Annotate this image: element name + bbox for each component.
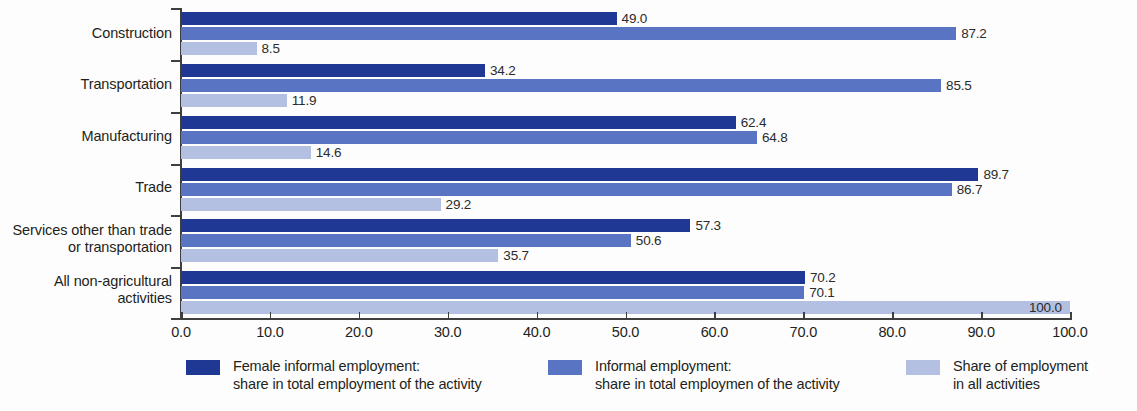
x-axis-tick — [892, 312, 894, 320]
x-axis-tick-label: 30.0 — [434, 324, 461, 340]
bar-value-label: 57.3 — [690, 218, 720, 233]
x-axis-tick-label: 70.0 — [790, 324, 817, 340]
x-axis-tick-label: 10.0 — [256, 324, 283, 340]
plot-area: 49.0 87.2 8.5 34.2 85.5 11.9 — [181, 8, 1070, 318]
bar-informal[interactable] — [181, 79, 941, 92]
legend-label-line: Share of employment — [953, 358, 1088, 376]
category-axis-labels: Construction Transportation Manufacturin… — [0, 0, 181, 330]
bar-group-trade: 89.7 86.7 29.2 — [181, 168, 1070, 216]
category-label-trade: Trade — [11, 179, 181, 196]
bar-group-services: 57.3 50.6 35.7 — [181, 219, 1070, 267]
x-axis-tick-label: 80.0 — [878, 324, 905, 340]
legend-label-line: in all activities — [953, 376, 1088, 394]
legend-label: Informal employment: share in total empl… — [595, 358, 840, 393]
category-label-line: Construction — [11, 25, 172, 42]
category-label-line: Trade — [11, 179, 172, 196]
legend-swatch-icon — [548, 360, 582, 375]
x-axis-tick — [803, 312, 805, 320]
bar-female-informal[interactable] — [181, 271, 805, 284]
x-axis-tick-label: 60.0 — [701, 324, 728, 340]
category-label-construction: Construction — [11, 25, 181, 42]
bar-share-all[interactable] — [181, 198, 441, 211]
bar-value-label: 70.1 — [804, 285, 834, 300]
bar-informal[interactable] — [181, 27, 956, 40]
bar-value-label: 64.8 — [757, 130, 787, 145]
bar-share-all[interactable] — [181, 42, 257, 55]
category-label-line: activities — [11, 290, 172, 307]
bar-value-label: 89.7 — [978, 167, 1008, 182]
bar-value-label: 70.2 — [805, 270, 835, 285]
bar-chart: Construction Transportation Manufacturin… — [0, 0, 1137, 411]
category-label-line: Services other than trade — [11, 222, 172, 239]
legend-item-share-all[interactable]: Share of employment in all activities — [906, 358, 1088, 393]
legend-label-line: Informal employment: — [595, 358, 840, 376]
x-axis-tick-label: 90.0 — [967, 324, 994, 340]
bar-informal[interactable] — [181, 286, 804, 299]
bar-female-informal[interactable] — [181, 219, 690, 232]
legend-item-female-informal[interactable]: Female informal employment: share in tot… — [186, 358, 482, 393]
category-label-manufacturing: Manufacturing — [11, 128, 181, 145]
x-axis-tick — [981, 312, 983, 320]
legend-label-line: share in total employment of the activit… — [233, 376, 482, 394]
x-axis-tick-label: 0.0 — [171, 324, 191, 340]
x-axis-tick — [181, 312, 183, 320]
bar-informal[interactable] — [181, 234, 631, 247]
bar-value-label: 62.4 — [736, 115, 766, 130]
bar-group-transportation: 34.2 85.5 11.9 — [181, 64, 1070, 112]
category-label-line: Manufacturing — [11, 128, 172, 145]
bar-value-label: 29.2 — [441, 197, 471, 212]
x-axis-tick — [270, 312, 272, 320]
legend-label: Female informal employment: share in tot… — [233, 358, 482, 393]
x-axis-tick — [537, 312, 539, 320]
bar-value-label: 100.0 — [1024, 300, 1062, 315]
bar-value-label: 49.0 — [617, 11, 647, 26]
x-axis-tick-label: 20.0 — [345, 324, 372, 340]
bar-value-label: 35.7 — [498, 248, 528, 263]
legend-swatch-icon — [906, 360, 940, 375]
bar-female-informal[interactable] — [181, 116, 736, 129]
legend-label-line: share in total employmen of the activity — [595, 376, 840, 394]
category-label-transportation: Transportation — [11, 76, 181, 93]
x-axis-tick-label: 40.0 — [523, 324, 550, 340]
bar-informal[interactable] — [181, 131, 757, 144]
x-axis-tick — [448, 312, 450, 320]
x-axis-tick — [626, 312, 628, 320]
legend-label-line: Female informal employment: — [233, 358, 482, 376]
x-axis-tick-label: 100.0 — [1052, 324, 1087, 340]
bar-female-informal[interactable] — [181, 12, 617, 25]
x-axis-tick-label: 50.0 — [612, 324, 639, 340]
category-label-all-non-agricultural: All non-agricultural activities — [11, 273, 181, 307]
bar-female-informal[interactable] — [181, 64, 485, 77]
category-label-line: All non-agricultural — [11, 273, 172, 290]
chart-legend: Female informal employment: share in tot… — [0, 358, 1137, 411]
bar-value-label: 8.5 — [257, 41, 280, 56]
x-axis-tick — [714, 312, 716, 320]
category-label-line: or transportation — [11, 239, 172, 256]
bar-value-label: 50.6 — [631, 233, 661, 248]
bar-informal[interactable] — [181, 183, 952, 196]
bar-share-all[interactable] — [181, 146, 311, 159]
bar-share-all[interactable] — [181, 94, 287, 107]
bar-value-label: 86.7 — [952, 182, 982, 197]
bar-group-construction: 49.0 87.2 8.5 — [181, 12, 1070, 60]
bar-share-all[interactable] — [181, 249, 498, 262]
legend-item-informal[interactable]: Informal employment: share in total empl… — [548, 358, 840, 393]
bar-group-manufacturing: 62.4 64.8 14.6 — [181, 116, 1070, 164]
bar-value-label: 11.9 — [287, 93, 316, 108]
x-axis-tick — [359, 312, 361, 320]
category-label-services: Services other than trade or transportat… — [11, 222, 181, 256]
bar-value-label: 34.2 — [485, 63, 515, 78]
x-axis-tick — [1070, 312, 1072, 320]
bar-value-label: 14.6 — [311, 145, 341, 160]
legend-label: Share of employment in all activities — [953, 358, 1088, 393]
bar-value-label: 87.2 — [956, 26, 986, 41]
bar-value-label: 85.5 — [941, 78, 971, 93]
category-label-line: Transportation — [11, 76, 172, 93]
legend-swatch-icon — [186, 360, 220, 375]
bar-female-informal[interactable] — [181, 168, 978, 181]
